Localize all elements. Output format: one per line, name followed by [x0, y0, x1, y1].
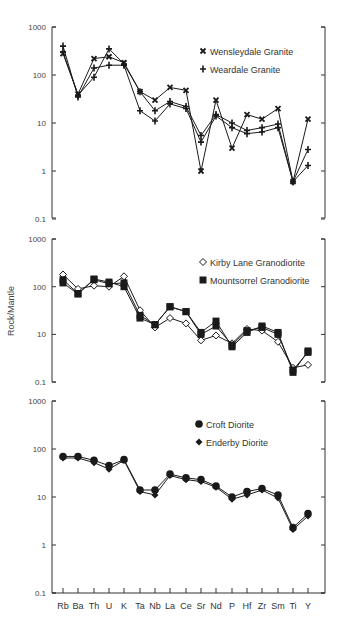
- legend-label-mountsorrel: Mountsorrel Granodiorite: [210, 276, 310, 286]
- filled-square-marker-icon: [106, 280, 113, 287]
- x-tick-label: K: [121, 601, 127, 611]
- filled-square-marker-icon: [183, 308, 190, 315]
- filled-square-marker-icon: [305, 349, 312, 356]
- x-tick-label: La: [165, 601, 175, 611]
- filled-square-marker-icon: [60, 276, 67, 283]
- panel-diorites: 10001001010.1: [28, 397, 325, 598]
- x-tick-label: Rb: [57, 601, 69, 611]
- y-tick-label: 1: [42, 167, 47, 176]
- y-tick-label: 1: [42, 541, 47, 550]
- plus-marker-icon: [229, 120, 235, 127]
- filled-square-marker-icon: [200, 277, 207, 284]
- y-tick-label: 0.1: [35, 215, 47, 224]
- legend-label-wensleydale: Wensleydale Granite: [210, 47, 293, 57]
- x-tick-label: U: [106, 601, 113, 611]
- plus-marker-icon: [198, 139, 204, 146]
- filled-square-marker-icon: [229, 341, 236, 348]
- x-axis-labels: RbBaThUKTaNbLaCeSrNdPHfZrSmTiY: [57, 601, 311, 611]
- x-marker-icon: [245, 112, 250, 117]
- filled-square-marker-icon: [75, 290, 82, 297]
- x-tick-label: Y: [305, 601, 311, 611]
- plus-marker-icon: [106, 62, 112, 69]
- filled-square-marker-icon: [167, 303, 174, 310]
- y-tick-label: 100: [33, 445, 47, 454]
- x-tick-label: Ba: [72, 601, 83, 611]
- legend-label-croft: Croft Diorite: [206, 420, 254, 430]
- x-tick-label: Zr: [258, 601, 267, 611]
- y-axis-line: [52, 239, 56, 382]
- y-tick-label: 10: [37, 119, 46, 128]
- y-tick-label: 0.1: [35, 589, 47, 598]
- x-marker-icon: [201, 49, 206, 54]
- series-line: [63, 458, 308, 530]
- y-axis-title: Rock/Mantle: [6, 286, 16, 336]
- y-tick-label: 10: [37, 493, 46, 502]
- filled-square-marker-icon: [91, 276, 98, 283]
- legend-label-enderby: Enderby Diorite: [206, 438, 268, 448]
- legend-label-kirby-lane: Kirby Lane Granodiorite: [210, 258, 305, 268]
- legend-top: Wensleydale Granite Weardale Granite: [210, 47, 293, 75]
- filled-circle-marker-icon: [195, 420, 203, 428]
- filled-square-marker-icon: [275, 331, 282, 338]
- x-tick-label: Hf: [243, 601, 252, 611]
- open-diamond-marker-icon: [167, 315, 174, 322]
- open-diamond-marker-icon: [200, 259, 207, 266]
- x-marker-icon: [260, 117, 265, 122]
- x-marker-icon: [230, 146, 235, 151]
- x-marker-icon: [153, 98, 158, 103]
- x-tick-label: Ti: [289, 601, 296, 611]
- plus-marker-icon: [200, 66, 206, 73]
- x-tick-label: Sr: [197, 601, 206, 611]
- filled-square-marker-icon: [121, 279, 128, 286]
- x-tick-label: Nb: [149, 601, 161, 611]
- series-line: [63, 456, 308, 527]
- plus-marker-icon: [137, 107, 143, 114]
- legend-label-weardale: Weardale Granite: [210, 65, 280, 75]
- y-tick-label: 1000: [28, 397, 46, 406]
- filled-diamond-marker-icon: [196, 439, 203, 446]
- open-diamond-marker-icon: [305, 361, 312, 368]
- plus-marker-icon: [60, 43, 66, 50]
- plus-marker-icon: [259, 124, 265, 131]
- y-tick-label: 0.1: [35, 378, 47, 387]
- plus-marker-icon: [275, 121, 281, 128]
- x-tick-label: Nd: [210, 601, 222, 611]
- y-tick-label: 10: [37, 330, 46, 339]
- y-tick-label: 100: [33, 71, 47, 80]
- x-tick-label: Ce: [180, 601, 192, 611]
- plus-marker-icon: [91, 64, 97, 71]
- filled-square-marker-icon: [290, 366, 297, 373]
- right-axis-line: [321, 239, 325, 382]
- open-diamond-marker-icon: [91, 282, 98, 289]
- plus-marker-icon: [305, 146, 311, 153]
- open-diamond-marker-icon: [213, 332, 220, 339]
- filled-square-marker-icon: [198, 331, 205, 338]
- y-tick-label: 100: [33, 283, 47, 292]
- x-tick-label: P: [229, 601, 235, 611]
- y-tick-label: 1000: [28, 235, 46, 244]
- legend-middle: Kirby Lane Granodiorite Mountsorrel Gran…: [210, 258, 310, 286]
- spider-diagram: 10001001010.1 1000100100.1 10001001010.1…: [0, 0, 341, 632]
- filled-square-marker-icon: [137, 312, 144, 319]
- x-tick-label: Sm: [271, 601, 285, 611]
- x-tick-label: Th: [89, 601, 100, 611]
- open-diamond-marker-icon: [121, 273, 128, 280]
- y-tick-label: 1000: [28, 23, 46, 32]
- filled-square-marker-icon: [259, 324, 266, 331]
- legend-bottom: Croft Diorite Enderby Diorite: [206, 420, 268, 448]
- filled-square-marker-icon: [152, 321, 159, 328]
- filled-square-marker-icon: [244, 327, 251, 334]
- filled-square-marker-icon: [213, 323, 220, 330]
- x-tick-label: Ta: [135, 601, 145, 611]
